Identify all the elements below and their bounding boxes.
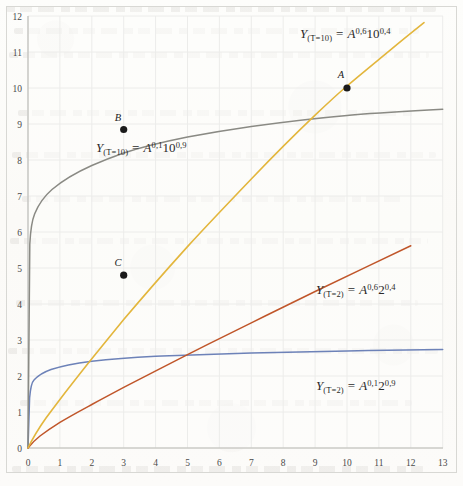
eq-subscript: (T̄=10) xyxy=(307,33,332,43)
eq-base-1: A xyxy=(144,140,152,155)
x-tick-2: 2 xyxy=(89,458,94,468)
eq-base-2: 2 xyxy=(378,282,385,297)
x-tick-9: 9 xyxy=(313,458,318,468)
x-tick-4: 4 xyxy=(153,458,158,468)
x-tick-labels: 0 1 2 3 4 5 6 7 8 9 10 11 12 13 xyxy=(26,458,448,468)
eq-exponent-1: 0,6 xyxy=(356,26,367,36)
y-tick-11: 11 xyxy=(13,48,22,58)
equation-yellow-curve: Y(T̄=10)=A0,6100,4 xyxy=(300,26,391,43)
x-tick-6: 6 xyxy=(217,458,222,468)
eq-exponent-2: 0,9 xyxy=(385,378,396,388)
eq-equals: = xyxy=(132,140,139,155)
x-tick-13: 13 xyxy=(438,458,448,468)
y-tick-labels: 12 11 10 9 8 7 6 5 4 3 2 1 0 xyxy=(13,12,23,454)
x-tick-10: 10 xyxy=(342,458,352,468)
eq-exponent-1: 0,6 xyxy=(367,282,378,292)
eq-exponent-2: 0,4 xyxy=(380,26,391,36)
eq-base-1: A xyxy=(348,26,356,41)
x-tick-1: 1 xyxy=(58,458,63,468)
x-tick-11: 11 xyxy=(374,458,383,468)
eq-base-2: 2 xyxy=(378,378,385,393)
equation-grey-curve: Y(T̄=10)=A0,1100,9 xyxy=(96,140,187,157)
equation-orange-curve: Y(T̄=2)=A0,620,4 xyxy=(316,282,396,299)
x-tick-7: 7 xyxy=(249,458,254,468)
y-tick-3: 3 xyxy=(17,336,22,346)
x-tick-12: 12 xyxy=(406,458,416,468)
y-tick-7: 7 xyxy=(17,192,22,202)
data-point-c-label: C xyxy=(114,257,122,268)
y-tick-5: 5 xyxy=(17,264,22,274)
y-tick-12: 12 xyxy=(13,12,23,22)
eq-subscript: (T̄=10) xyxy=(103,147,128,157)
data-point-b-label: B xyxy=(115,112,122,123)
y-tick-8: 8 xyxy=(17,156,22,166)
eq-equals: = xyxy=(336,26,343,41)
y-tick-2: 2 xyxy=(17,372,22,382)
x-tick-8: 8 xyxy=(281,458,286,468)
chart-svg: A B C 12 11 10 9 8 7 6 5 4 3 2 1 0 0 1 2 xyxy=(0,0,463,486)
y-tick-0: 0 xyxy=(17,444,22,454)
y-tick-9: 9 xyxy=(17,120,22,130)
eq-base-2: 10 xyxy=(163,140,176,155)
eq-exponent-1: 0,1 xyxy=(367,378,378,388)
data-point-b xyxy=(120,126,127,133)
eq-exponent-2: 0,4 xyxy=(385,282,396,292)
figure-container: A B C 12 11 10 9 8 7 6 5 4 3 2 1 0 0 1 2 xyxy=(0,0,463,486)
x-tick-3: 3 xyxy=(121,458,126,468)
eq-base-2: 10 xyxy=(367,26,380,41)
eq-exponent-1: 0,1 xyxy=(152,140,163,150)
data-point-a xyxy=(343,84,350,91)
eq-subscript: (T̄=2) xyxy=(323,385,343,395)
data-point-a-label: A xyxy=(337,69,345,80)
y-tick-10: 10 xyxy=(13,84,23,94)
eq-subscript: (T̄=2) xyxy=(323,289,343,299)
x-tick-0: 0 xyxy=(26,458,31,468)
x-tick-5: 5 xyxy=(185,458,190,468)
data-point-c xyxy=(120,272,127,279)
equation-blue-curve: Y(T̄=2)=A0,120,9 xyxy=(316,378,396,395)
eq-equals: = xyxy=(348,378,355,393)
y-tick-6: 6 xyxy=(17,228,22,238)
eq-equals: = xyxy=(348,282,355,297)
eq-exponent-2: 0,9 xyxy=(176,140,187,150)
y-tick-1: 1 xyxy=(17,408,22,418)
y-tick-4: 4 xyxy=(17,300,22,310)
